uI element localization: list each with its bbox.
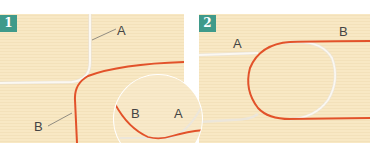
step-2-label-b: B: [339, 25, 348, 38]
inset-label-b: B: [131, 107, 140, 120]
inset-label-a: A: [174, 107, 183, 120]
cord-b-orange-bottom: [288, 118, 370, 119]
cord-b-orange-top: [290, 41, 370, 42]
step-2-badge: 2: [199, 15, 216, 32]
step-1-label-a: A: [117, 24, 126, 37]
step-1-label-b: B: [34, 120, 43, 133]
step-1-badge: 1: [0, 15, 17, 32]
step-2-label-a: A: [233, 37, 242, 50]
knot-illustration: [0, 0, 370, 148]
